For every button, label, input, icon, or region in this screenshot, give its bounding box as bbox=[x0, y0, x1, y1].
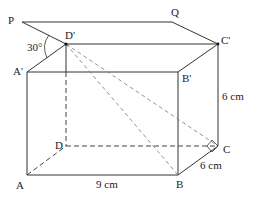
label-B-prime: B' bbox=[182, 72, 191, 84]
label-C-prime: C' bbox=[221, 34, 230, 46]
dimension-AB: 9 cm bbox=[96, 178, 118, 190]
label-A-prime: A' bbox=[13, 65, 23, 77]
diagonal-D-prime-B bbox=[66, 44, 178, 175]
label-C: C bbox=[223, 143, 230, 155]
diagonal-D-prime-C bbox=[66, 44, 218, 146]
angle-label: 30° bbox=[27, 41, 42, 53]
cuboid-diagram: P Q D' C' A' B' D C A B 9 cm 6 cm 6 cm 3… bbox=[0, 0, 257, 198]
label-A: A bbox=[16, 179, 24, 191]
point-D-prime bbox=[64, 42, 67, 45]
angle-arc-30 bbox=[44, 35, 49, 58]
label-D: D bbox=[55, 139, 63, 151]
edge-QC-prime bbox=[172, 22, 218, 44]
point-C-prime bbox=[217, 43, 220, 46]
label-D-prime: D' bbox=[65, 29, 75, 41]
edge-B-prime-C-prime bbox=[178, 44, 218, 72]
dimension-CC-prime: 6 cm bbox=[222, 90, 244, 102]
dimension-BC: 6 cm bbox=[200, 159, 222, 171]
label-P: P bbox=[8, 14, 14, 26]
label-Q: Q bbox=[171, 6, 179, 18]
label-B: B bbox=[176, 178, 183, 190]
